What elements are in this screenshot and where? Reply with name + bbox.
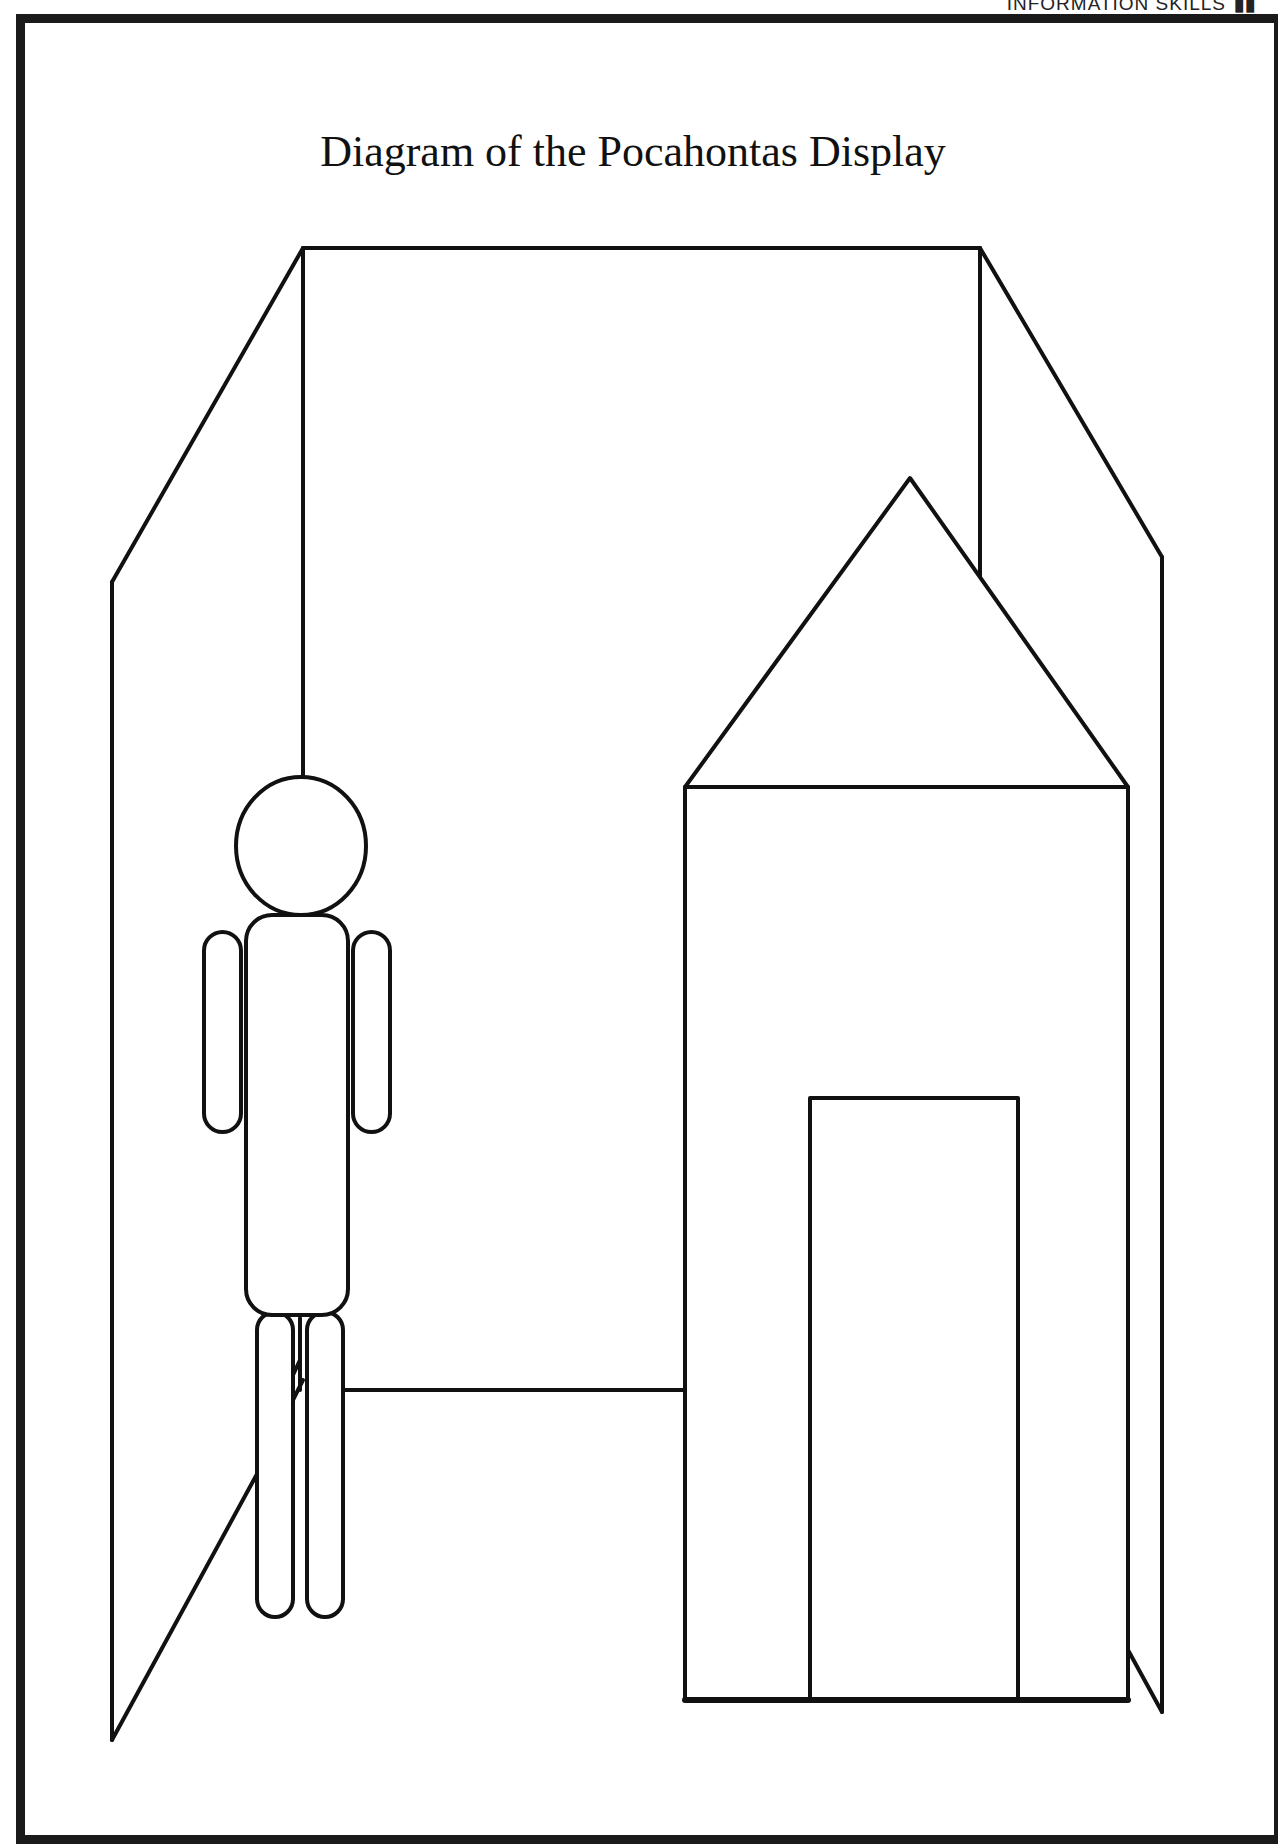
figure-right-arm — [353, 932, 390, 1132]
back-panel — [303, 248, 980, 777]
figure-right-leg — [307, 1312, 343, 1617]
figure-left-arm — [204, 932, 241, 1132]
figure — [204, 777, 390, 1617]
figure-head — [236, 777, 366, 915]
house — [685, 478, 1128, 1700]
figure-body — [246, 915, 348, 1315]
figure-left-leg — [257, 1312, 293, 1617]
house-body — [685, 787, 1128, 1700]
house-roof — [685, 478, 1128, 787]
